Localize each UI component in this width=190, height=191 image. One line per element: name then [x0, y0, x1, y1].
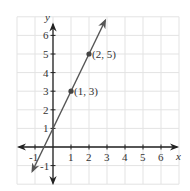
data-point-label: (1, 3): [74, 85, 98, 98]
y-tick-label: 5: [43, 48, 49, 60]
y-tick-label: 3: [43, 85, 49, 97]
x-tick-label: 4: [122, 151, 128, 163]
y-tick-label: 2: [43, 104, 49, 116]
x-tick-label: 1: [68, 151, 74, 163]
y-tick-label: 4: [43, 67, 49, 79]
x-tick-label: 3: [104, 151, 110, 163]
y-tick-label: -1: [40, 160, 49, 172]
y-axis-label: y: [44, 11, 50, 23]
x-tick-label: 5: [140, 151, 146, 163]
x-tick-label: 2: [86, 151, 92, 163]
x-axis-label: x: [175, 150, 181, 162]
data-point: [86, 51, 91, 56]
x-tick-label: 6: [158, 151, 164, 163]
y-tick-label: 6: [43, 29, 49, 41]
coordinate-plane: -1123456654321-1 (1, 3)(2, 5) y x: [0, 0, 190, 191]
y-tick-label: 1: [43, 122, 49, 134]
data-point-label: (2, 5): [92, 48, 116, 61]
data-point: [68, 89, 73, 94]
